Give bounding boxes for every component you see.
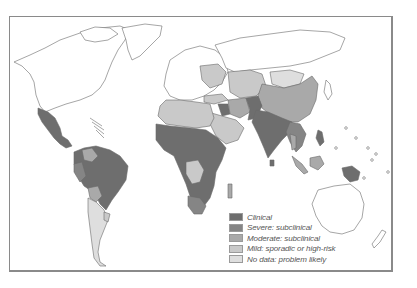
region-sri-lanka — [270, 160, 274, 166]
region-north-america — [14, 26, 130, 112]
legend-item-mild: Mild: sporadic or high-risk — [229, 244, 335, 255]
legend-swatch-clinical — [229, 213, 243, 221]
map-legend: Clinical Severe: subclinical Moderate: s… — [229, 212, 335, 265]
region-uruguay — [104, 212, 110, 222]
region-new-zealand — [372, 230, 386, 248]
region-turkey — [204, 94, 228, 104]
region-borneo — [310, 156, 324, 170]
region-caribbean — [90, 118, 104, 138]
region-philippines — [316, 130, 324, 146]
region-north-africa — [158, 100, 214, 128]
legend-swatch-mild — [229, 245, 243, 253]
legend-item-moderate-subclinical: Moderate: subclinical — [229, 233, 335, 244]
legend-label: No data: problem likely — [247, 255, 326, 264]
region-russia — [215, 30, 345, 72]
legend-item-clinical: Clinical — [229, 212, 335, 223]
legend-item-no-data: No data: problem likely — [229, 254, 335, 265]
legend-swatch-no-data — [229, 255, 243, 263]
legend-swatch-moderate-subclinical — [229, 234, 243, 242]
legend-item-severe-subclinical: Severe: subclinical — [229, 223, 335, 234]
legend-label: Clinical — [247, 213, 272, 222]
legend-swatch-severe-subclinical — [229, 224, 243, 232]
region-madagascar — [228, 184, 232, 198]
region-sumatra — [292, 156, 308, 174]
legend-label: Moderate: subclinical — [247, 234, 320, 243]
legend-label: Mild: sporadic or high-risk — [247, 244, 335, 253]
region-thailand — [290, 134, 296, 150]
region-greenland — [122, 24, 162, 60]
region-iraq — [218, 104, 230, 116]
legend-label: Severe: subclinical — [247, 223, 312, 232]
region-japan — [324, 80, 332, 100]
region-papua — [342, 166, 360, 182]
region-mexico — [38, 108, 72, 148]
world-map — [0, 0, 417, 288]
